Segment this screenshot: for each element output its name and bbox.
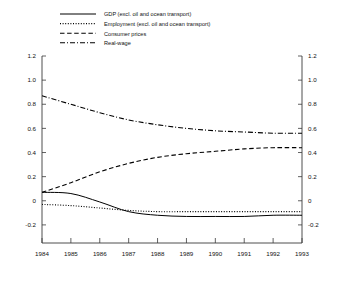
series-line	[42, 204, 302, 211]
chart-figure: GDP (excl. oil and ocean transport)Emplo…	[0, 0, 350, 281]
x-tick-label: 1987	[122, 250, 136, 257]
x-tick-label: 1993	[295, 250, 309, 257]
y-tick-label-right: 0.8	[308, 100, 317, 107]
chart-legend: GDP (excl. oil and ocean transport)Emplo…	[60, 11, 210, 46]
chart-axes	[42, 56, 302, 243]
y-tick-label-right: 1.2	[308, 52, 317, 59]
y-tick-label-right: 0.2	[308, 173, 317, 180]
y-tick-label-left: 1.0	[27, 76, 36, 83]
x-axis-ticks: 1984198519861987198819891990199119921993	[35, 238, 309, 257]
y-axis-left-ticks: 1.21.00.80.60.40.20-0.2	[25, 52, 46, 228]
series-line	[42, 148, 302, 193]
y-tick-label-left: 1.2	[27, 52, 36, 59]
series-line	[42, 192, 302, 216]
y-tick-label-right: 1.0	[308, 76, 317, 83]
y-tick-label-right: 0	[308, 197, 312, 204]
y-axis-right-ticks: 1.21.00.80.60.40.20-0.2	[298, 52, 319, 228]
legend-label: Consumer prices	[104, 31, 146, 37]
y-tick-label-left: 0.2	[27, 173, 36, 180]
y-tick-label-left: 0.8	[27, 100, 36, 107]
x-tick-label: 1985	[64, 250, 78, 257]
legend-label: Employment (excl. oil and ocean transpor…	[104, 21, 210, 27]
x-tick-label: 1986	[93, 250, 107, 257]
y-tick-label-right: 0.4	[308, 149, 317, 156]
y-tick-label-right: -0.2	[308, 221, 319, 228]
legend-label: Real-wage	[104, 40, 131, 46]
y-tick-label-left: -0.2	[25, 221, 36, 228]
line-chart: GDP (excl. oil and ocean transport)Emplo…	[0, 0, 350, 281]
x-tick-label: 1992	[266, 250, 280, 257]
y-tick-label-left: 0	[33, 197, 37, 204]
x-tick-label: 1984	[35, 250, 49, 257]
axis-frame	[42, 56, 302, 243]
x-tick-label: 1988	[151, 250, 165, 257]
y-tick-label-left: 0.4	[27, 149, 36, 156]
x-tick-label: 1990	[208, 250, 222, 257]
chart-series	[42, 96, 302, 217]
legend-label: GDP (excl. oil and ocean transport)	[104, 11, 191, 17]
x-tick-label: 1991	[237, 250, 251, 257]
y-tick-label-right: 0.6	[308, 125, 317, 132]
x-tick-label: 1989	[180, 250, 194, 257]
y-tick-label-left: 0.6	[27, 125, 36, 132]
series-line	[42, 96, 302, 133]
